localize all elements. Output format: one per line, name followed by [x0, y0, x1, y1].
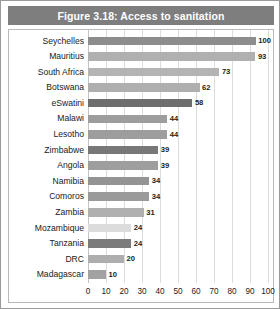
bar-value-label: 44	[170, 115, 178, 123]
chart-bars: Seychelles100Mauritius93South Africa73Bo…	[9, 33, 275, 283]
bar-value-label: 62	[202, 84, 210, 92]
bar-cell: 62	[88, 80, 271, 96]
figure-title-bar: Figure 3.18: Access to sanitation	[8, 6, 274, 25]
bar-value-label: 44	[170, 131, 178, 139]
bar-value-label: 10	[109, 271, 117, 279]
chart-row: Mauritius93	[9, 49, 275, 65]
bar-value-label: 20	[127, 255, 135, 263]
bar-cell: 31	[88, 205, 271, 221]
bar[interactable]	[88, 255, 124, 264]
bar-value-label: 100	[258, 37, 271, 45]
chart-row: Angola39	[9, 158, 275, 174]
bar[interactable]	[88, 208, 144, 217]
category-label: Tanzania	[9, 239, 88, 248]
category-label: Madagascar	[9, 270, 88, 279]
chart-row: Zimbabwe39	[9, 142, 275, 158]
bar-cell: 39	[88, 142, 271, 158]
bar[interactable]	[88, 37, 256, 46]
bar[interactable]	[88, 177, 149, 186]
bar-cell: 10	[88, 267, 271, 283]
bar[interactable]	[88, 270, 106, 279]
bar-value-label: 24	[134, 240, 142, 248]
x-tick-label: 100	[261, 288, 275, 296]
bar-value-label: 39	[161, 146, 169, 154]
bar[interactable]	[88, 239, 131, 248]
chart-row: Zambia31	[9, 205, 275, 221]
x-tick-label: 60	[191, 288, 200, 296]
bar-cell: 93	[88, 49, 271, 65]
category-label: Namibia	[9, 177, 88, 186]
bar[interactable]	[88, 130, 167, 139]
chart-row: Comoros34	[9, 189, 275, 205]
chart-row: Malawi44	[9, 111, 275, 127]
bar-cell: 73	[88, 64, 271, 80]
bar[interactable]	[88, 52, 255, 61]
bar-value-label: 34	[152, 193, 160, 201]
bar-value-label: 73	[222, 68, 230, 76]
bar-cell: 100	[88, 33, 271, 49]
bar-cell: 20	[88, 251, 271, 267]
x-tick-label: 90	[245, 288, 254, 296]
bar-value-label: 34	[152, 177, 160, 185]
category-label: South Africa	[9, 68, 88, 77]
chart-row: Lesotho44	[9, 127, 275, 143]
bar[interactable]	[88, 161, 158, 170]
chart-x-axis: 0102030405060708090100	[9, 285, 275, 301]
bar-value-label: 58	[195, 99, 203, 107]
bar-cell: 34	[88, 189, 271, 205]
chart-row: Tanzania24	[9, 236, 275, 252]
category-label: Zimbabwe	[9, 146, 88, 155]
chart-row: eSwatini58	[9, 95, 275, 111]
bar-value-label: 31	[146, 209, 154, 217]
bar[interactable]	[88, 68, 219, 77]
bar-cell: 24	[88, 236, 271, 252]
chart-row: Madagascar10	[9, 267, 275, 283]
bar[interactable]	[88, 224, 131, 233]
x-tick-label: 20	[119, 288, 128, 296]
chart-row: Botswana62	[9, 80, 275, 96]
bar[interactable]	[88, 192, 149, 201]
x-tick-label: 70	[209, 288, 218, 296]
page-title: Figure 3.18: Access to sanitation	[58, 10, 225, 22]
x-tick-label: 0	[86, 288, 91, 296]
category-label: Mozambique	[9, 224, 88, 233]
bar-value-label: 24	[134, 224, 142, 232]
chart-row: DRC20	[9, 251, 275, 267]
bar-value-label: 93	[258, 53, 266, 61]
bar[interactable]	[88, 83, 200, 92]
chart-row: Namibia34	[9, 173, 275, 189]
chart-plot-area: Seychelles100Mauritius93South Africa73Bo…	[8, 29, 274, 303]
bar-cell: 44	[88, 127, 271, 143]
x-tick-label: 30	[137, 288, 146, 296]
bar[interactable]	[88, 146, 158, 155]
bar[interactable]	[88, 99, 192, 108]
bar-value-label: 39	[161, 162, 169, 170]
x-tick-label: 80	[227, 288, 236, 296]
bar-cell: 34	[88, 173, 271, 189]
x-tick-label: 10	[101, 288, 110, 296]
chart-row: Seychelles100	[9, 33, 275, 49]
category-label: Zambia	[9, 208, 88, 217]
category-label: Botswana	[9, 83, 88, 92]
x-tick-label: 50	[173, 288, 182, 296]
bar-cell: 58	[88, 95, 271, 111]
bar[interactable]	[88, 115, 167, 124]
category-label: Lesotho	[9, 130, 88, 139]
category-label: Malawi	[9, 114, 88, 123]
bar-cell: 44	[88, 111, 271, 127]
chart-row: Mozambique24	[9, 220, 275, 236]
category-label: Mauritius	[9, 52, 88, 61]
category-label: DRC	[9, 255, 88, 264]
category-label: eSwatini	[9, 99, 88, 108]
bar-cell: 39	[88, 158, 271, 174]
category-label: Angola	[9, 161, 88, 170]
x-tick-label: 40	[155, 288, 164, 296]
category-label: Comoros	[9, 192, 88, 201]
bar-cell: 24	[88, 220, 271, 236]
category-label: Seychelles	[9, 37, 88, 46]
chart-row: South Africa73	[9, 64, 275, 80]
figure-container: Figure 3.18: Access to sanitation Seyche…	[0, 0, 280, 309]
